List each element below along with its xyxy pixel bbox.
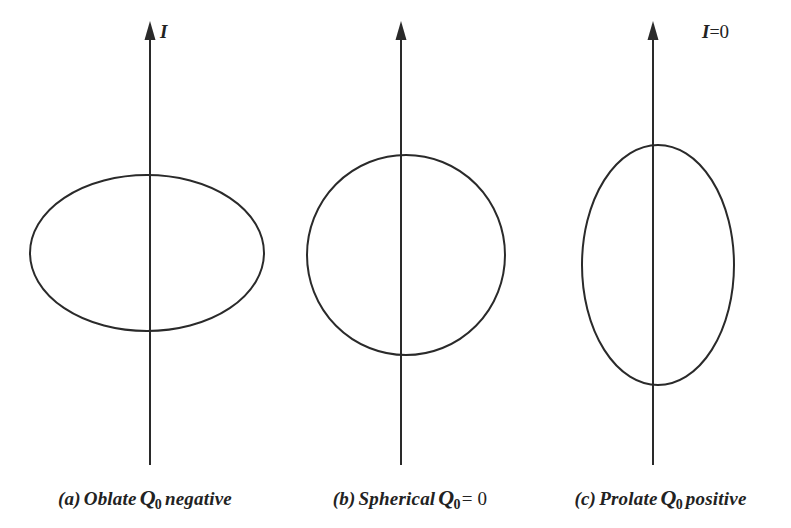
caption-shape-word-a: Oblate xyxy=(84,488,137,509)
spherical-circle-shape xyxy=(307,155,505,355)
caption-a: (a)OblateQ0negative xyxy=(0,487,290,512)
panel-prolate-graphic xyxy=(530,0,791,528)
caption-tag-a: (a) xyxy=(58,488,81,509)
arrow-head-icon-c xyxy=(648,21,659,40)
caption-b: (b)SphericalQ0= 0 xyxy=(290,487,530,512)
caption-shape-word-c: Prolate xyxy=(599,488,657,509)
caption-symbol-b: Q xyxy=(438,485,454,510)
arrow-head-icon-b xyxy=(396,21,407,40)
panel-spherical: I=0 (b)SphericalQ0= 0 xyxy=(290,0,530,528)
caption-tag-b: (b) xyxy=(333,488,356,509)
panel-spherical-graphic xyxy=(290,0,530,528)
caption-symbol-a: Q xyxy=(140,485,156,510)
prolate-ellipse-shape xyxy=(582,145,734,385)
axis-label-a: I xyxy=(160,22,167,41)
caption-subscript-c: 0 xyxy=(676,497,683,512)
arrow-head-icon-a xyxy=(145,21,156,40)
oblate-ellipse-shape xyxy=(30,175,264,331)
caption-equals-b: = 0 xyxy=(462,488,488,509)
panel-prolate: I (c)ProlateQ0positive xyxy=(530,0,791,528)
caption-symbol-c: Q xyxy=(661,485,677,510)
quadrupole-shapes-figure: I (a)OblateQ0negative I=0 (b)SphericalQ0… xyxy=(0,0,791,528)
caption-qualifier-a: negative xyxy=(165,488,232,509)
caption-shape-word-b: Spherical xyxy=(359,488,436,509)
caption-subscript-a: 0 xyxy=(155,497,162,512)
caption-c: (c)ProlateQ0positive xyxy=(530,487,791,512)
caption-subscript-b: 0 xyxy=(453,497,460,512)
caption-qualifier-c: positive xyxy=(686,488,747,509)
caption-tag-c: (c) xyxy=(574,488,596,509)
panel-oblate-graphic xyxy=(0,0,290,528)
axis-label-symbol-a: I xyxy=(160,21,167,42)
panel-oblate: I (a)OblateQ0negative xyxy=(0,0,290,528)
